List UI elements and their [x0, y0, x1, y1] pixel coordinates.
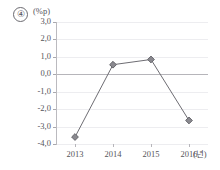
y-axis-tick-mark: [53, 92, 56, 93]
y-axis-tick-mark: [53, 144, 56, 145]
x-axis-tick-mark: [113, 144, 114, 147]
y-axis-tick-mark: [53, 22, 56, 23]
x-axis-tick-label: 2014: [93, 149, 133, 160]
x-axis-tick-label: 2013: [55, 149, 95, 160]
y-axis-tick-mark: [53, 57, 56, 58]
y-axis-tick-mark: [53, 109, 56, 110]
line-series-layer: [0, 0, 220, 170]
x-axis-tick-label: 2016: [169, 149, 209, 160]
y-axis-tick-mark: [53, 127, 56, 128]
x-axis-tick-label: 2015: [131, 149, 171, 160]
y-axis-tick-mark: [53, 39, 56, 40]
x-axis-tick-mark: [75, 144, 76, 147]
chart-figure: ④ (%p) 3,02,01,00,0-1,0-2,0-3,0-4,0 (년) …: [0, 0, 220, 170]
data-point-marker: [72, 134, 79, 141]
x-axis-tick-mark: [189, 144, 190, 147]
data-point-marker: [148, 56, 155, 63]
data-point-marker: [186, 117, 193, 124]
data-point-marker: [110, 61, 117, 68]
series-line: [75, 59, 189, 137]
x-axis-tick-mark: [151, 144, 152, 147]
y-axis-tick-mark: [53, 74, 56, 75]
